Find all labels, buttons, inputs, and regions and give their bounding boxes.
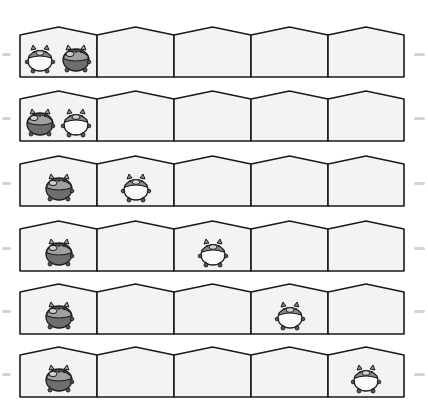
house-5 [328,284,404,334]
margin-mark [414,117,425,120]
house-3 [174,284,251,334]
margin-mark [2,247,11,250]
margin-mark [414,373,425,376]
house-3 [174,347,251,397]
house-2 [97,91,174,141]
dark-pig-icon [42,171,76,203]
margin-mark [414,53,425,56]
house-5 [328,27,404,77]
house-row-5 [0,283,428,347]
light-pig-icon [59,106,93,138]
house-4 [251,221,328,271]
pig-houses-diagram [0,0,428,420]
house-3 [174,156,251,206]
margin-mark [414,247,425,250]
light-pig-icon [349,362,383,394]
margin-mark [2,373,11,376]
margin-mark [2,310,11,313]
margin-mark [2,53,11,56]
house-4 [251,27,328,77]
light-pig-icon [119,171,153,203]
light-pig-icon [23,42,57,74]
house-5 [328,221,404,271]
light-pig-icon [273,299,307,331]
house-4 [251,91,328,141]
dark-pig-icon [59,42,93,74]
dark-pig-icon [42,236,76,268]
house-2 [97,27,174,77]
house-2 [97,221,174,271]
house-4 [251,347,328,397]
house-row-4 [0,220,428,284]
margin-mark [2,117,11,120]
margin-mark [414,310,425,313]
dark-pig-icon [42,362,76,394]
house-2 [97,284,174,334]
margin-mark [2,182,11,185]
house-5 [328,91,404,141]
house-row-3 [0,155,428,219]
house-5 [328,156,404,206]
house-row-2 [0,90,428,154]
house-row-1 [0,26,428,90]
house-3 [174,27,251,77]
dark-pig-icon [42,299,76,331]
house-2 [97,347,174,397]
house-row-6 [0,346,428,410]
light-pig-icon [196,236,230,268]
house-4 [251,156,328,206]
dark-pig-icon [23,106,57,138]
house-3 [174,91,251,141]
margin-mark [414,182,425,185]
